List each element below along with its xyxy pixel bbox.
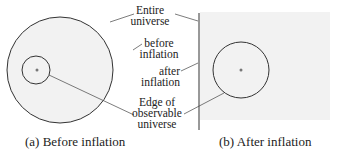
observer-dot-after bbox=[240, 69, 243, 72]
leader-entire-after bbox=[175, 14, 198, 21]
label-after-inflation: after inflation bbox=[134, 66, 180, 88]
leader-after-inflation bbox=[181, 63, 198, 71]
observer-dot-before bbox=[36, 69, 39, 72]
label-before-inflation: before inflation bbox=[136, 38, 182, 60]
label-line: universe bbox=[128, 16, 172, 27]
label-line: inflation bbox=[134, 77, 180, 88]
label-line: universe bbox=[130, 119, 184, 130]
entire-universe-after-region bbox=[200, 12, 330, 120]
label-entire-universe: Entire universe bbox=[128, 5, 172, 27]
label-line: inflation bbox=[136, 49, 182, 60]
caption-a: (a) Before inflation bbox=[25, 134, 125, 150]
caption-b: (b) After inflation bbox=[219, 134, 311, 150]
label-edge-observable: Edge of observable universe bbox=[130, 97, 184, 130]
